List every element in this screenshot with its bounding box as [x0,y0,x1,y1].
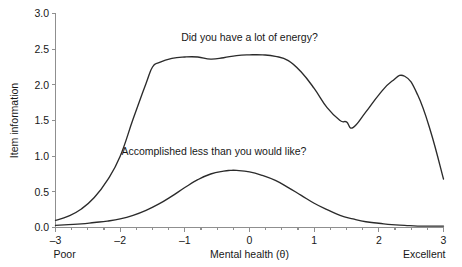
y-axis: 0.00.51.01.52.02.53.0 [34,7,55,233]
curve-series-2 [56,170,444,226]
data-curves [56,55,444,226]
y-tick-label: 2.5 [34,43,49,55]
x-tick-label: 0 [247,234,253,246]
y-axis-title: Item information [8,83,20,158]
y-tick-label: 0.0 [34,221,49,233]
y-tick-label: 0.5 [34,186,49,198]
x-tick-label: 2 [376,234,382,246]
x-axis: –3–2–10123 [50,228,447,246]
annotation-2: Accomplished less than you would like? [121,145,306,157]
curve-annotations: Did you have a lot of energy?Accomplishe… [121,31,318,157]
x-tick-label: 1 [311,234,317,246]
item-information-chart: 0.00.51.01.52.02.53.0 –3–2–10123 Did you… [0,0,462,267]
x-axis-end-label-left: Poor [54,248,77,260]
chart-canvas: 0.00.51.01.52.02.53.0 –3–2–10123 Did you… [0,0,462,267]
annotation-1: Did you have a lot of energy? [181,31,318,43]
y-tick-label: 3.0 [34,7,49,19]
x-axis-end-label-right: Excellent [403,248,446,260]
y-tick-label: 2.0 [34,79,49,91]
y-tick-label: 1.5 [34,114,49,126]
y-tick-label: 1.0 [34,150,49,162]
x-tick-label: –1 [179,234,191,246]
x-axis-title: Mental health (θ) [210,248,289,260]
x-tick-label: –2 [114,234,126,246]
curve-series-1 [56,55,444,221]
x-tick-label: 3 [441,234,447,246]
x-tick-label: –3 [50,234,62,246]
